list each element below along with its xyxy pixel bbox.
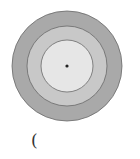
caption-paren: ( [31,132,38,149]
center-dot [65,64,68,67]
concentric-circles-diagram [0,0,140,159]
